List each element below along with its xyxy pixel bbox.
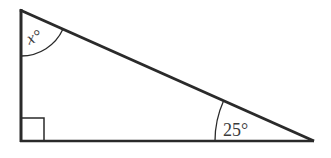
right-angle-marker <box>21 118 44 141</box>
angle-label-x: x° <box>23 26 44 49</box>
hypotenuse <box>20 10 314 141</box>
right-triangle-diagram: x° 25° <box>0 0 331 158</box>
triangle-figure: x° 25° <box>0 0 331 158</box>
angle-label-25: 25° <box>223 120 248 140</box>
